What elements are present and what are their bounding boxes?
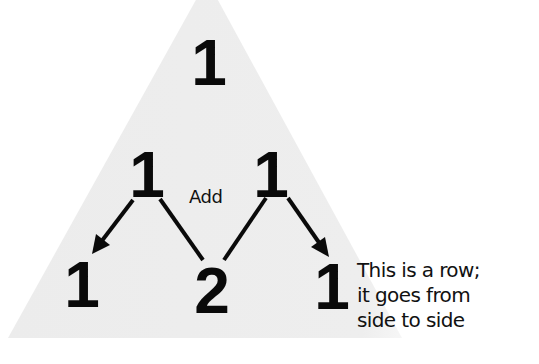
caption-line-3: side to side	[357, 308, 480, 333]
row2-value-left: 1	[62, 253, 102, 317]
row0-value-1: 1	[189, 31, 229, 95]
add-label: Add	[189, 188, 222, 206]
pascal-triangle-diagram: 1 1 1 Add 1 2 1 This is a row; it goes f…	[0, 0, 539, 364]
row1-value-right: 1	[251, 143, 291, 207]
row1-value-left: 1	[127, 143, 167, 207]
caption-line-2: it goes from	[357, 283, 480, 308]
row2-value-middle: 2	[192, 259, 232, 323]
caption-line-1: This is a row;	[357, 258, 480, 283]
row2-value-right: 1	[312, 255, 352, 319]
row-caption: This is a row; it goes from side to side	[357, 258, 480, 333]
